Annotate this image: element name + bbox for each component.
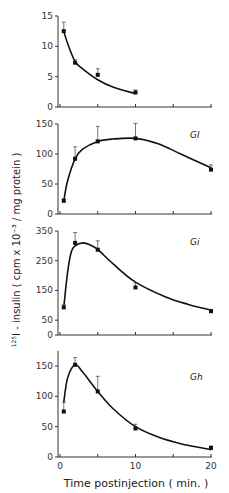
y-tick-label: 50 bbox=[42, 315, 54, 325]
panel-3: 050150250350Gi bbox=[36, 226, 213, 340]
x-tick-label: 0 bbox=[57, 461, 63, 471]
y-tick-label: 100 bbox=[36, 391, 53, 401]
y-tick-label: 0 bbox=[47, 452, 53, 462]
y-tick-label: 15 bbox=[42, 11, 53, 21]
data-point bbox=[73, 61, 77, 65]
y-tick-label: 0 bbox=[47, 209, 53, 219]
x-tick-label: 20 bbox=[205, 461, 217, 471]
panel-label: Gi bbox=[190, 237, 200, 247]
data-point bbox=[209, 446, 213, 450]
data-point bbox=[96, 139, 100, 143]
y-tick-label: 10 bbox=[42, 41, 54, 51]
panel-4: 050100150Gh bbox=[36, 351, 213, 462]
data-point bbox=[96, 73, 100, 77]
y-tick-label: 0 bbox=[47, 330, 53, 340]
data-point bbox=[62, 29, 66, 33]
data-point bbox=[134, 426, 138, 430]
y-tick-label: 5 bbox=[47, 72, 53, 82]
y-tick-label: 250 bbox=[36, 256, 53, 266]
panel-label: Gh bbox=[190, 372, 203, 382]
y-tick-label: 150 bbox=[36, 119, 53, 129]
data-point bbox=[62, 305, 66, 309]
y-axis-title: 125I - insulin ( cpm x 10⁻³ / mg protein… bbox=[10, 153, 22, 348]
fit-curve bbox=[64, 138, 211, 201]
data-point bbox=[62, 410, 66, 414]
y-tick-label: 350 bbox=[36, 226, 53, 236]
data-point bbox=[134, 90, 138, 94]
data-point bbox=[96, 389, 100, 393]
x-tick-label: 10 bbox=[130, 461, 142, 471]
data-point bbox=[73, 363, 77, 367]
panel-label: GI bbox=[190, 130, 200, 140]
y-tick-label: 50 bbox=[42, 179, 54, 189]
y-tick-label: 50 bbox=[42, 422, 54, 432]
multi-panel-chart: 051015050100150GI050150250350Gi050100150… bbox=[0, 0, 229, 493]
y-tick-label: 150 bbox=[36, 361, 53, 371]
data-point bbox=[62, 199, 66, 203]
panel-2: 050100150GI bbox=[36, 119, 213, 219]
data-point bbox=[134, 136, 138, 140]
panel-1: 051015 bbox=[42, 11, 212, 112]
data-point bbox=[73, 241, 77, 245]
data-point bbox=[96, 248, 100, 252]
data-point bbox=[73, 157, 77, 161]
fit-curve bbox=[64, 365, 211, 450]
data-point bbox=[209, 309, 213, 313]
y-tick-label: 100 bbox=[36, 149, 53, 159]
x-axis-title: Time postinjection ( min. ) bbox=[63, 477, 208, 490]
y-tick-label: 0 bbox=[47, 102, 53, 112]
fit-curve bbox=[64, 243, 211, 310]
data-point bbox=[134, 285, 138, 289]
y-tick-label: 150 bbox=[36, 285, 53, 295]
data-point bbox=[209, 168, 213, 172]
